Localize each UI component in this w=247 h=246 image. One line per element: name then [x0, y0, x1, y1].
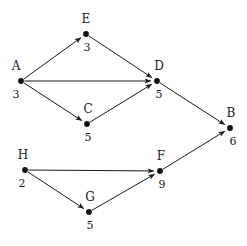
node-label-F: F	[157, 149, 165, 163]
edge-G-to-F	[92, 174, 155, 210]
node-dot-A[interactable]	[18, 78, 24, 84]
graph-canvas: A3E3C5D5B6H2G5F9	[0, 0, 247, 246]
edge-D-to-B	[160, 83, 225, 125]
node-value-G: 5	[87, 219, 94, 232]
node-D[interactable]: D5	[154, 59, 164, 101]
node-C[interactable]: C5	[83, 102, 92, 144]
node-value-F: 9	[159, 178, 166, 191]
edge-F-to-B	[163, 131, 225, 169]
node-dot-G[interactable]	[86, 209, 92, 215]
edge-E-to-D	[89, 36, 152, 78]
edge-C-to-D	[90, 84, 152, 122]
node-E[interactable]: E3	[82, 12, 91, 54]
node-value-A: 3	[13, 88, 20, 101]
node-dot-C[interactable]	[84, 121, 90, 127]
node-dot-E[interactable]	[83, 31, 89, 37]
edges-layer	[24, 36, 225, 210]
node-F[interactable]: F9	[157, 149, 166, 191]
node-label-A: A	[11, 59, 21, 73]
node-dot-F[interactable]	[157, 168, 163, 174]
node-B[interactable]: B6	[227, 106, 237, 148]
nodes-layer: A3E3C5D5B6H2G5F9	[11, 12, 237, 232]
node-G[interactable]: G5	[85, 190, 95, 232]
edge-H-to-G	[28, 172, 84, 209]
graph-diagram: A3E3C5D5B6H2G5F9	[0, 0, 247, 246]
node-label-G: G	[85, 190, 95, 204]
node-label-B: B	[227, 106, 236, 120]
node-A[interactable]: A3	[11, 59, 24, 101]
node-dot-B[interactable]	[227, 125, 233, 131]
node-value-B: 6	[230, 135, 237, 148]
node-dot-D[interactable]	[154, 78, 160, 84]
edge-A-to-E	[24, 38, 81, 79]
node-dot-H[interactable]	[22, 167, 28, 173]
node-label-H: H	[18, 148, 28, 162]
node-value-D: 5	[156, 88, 163, 101]
node-label-D: D	[154, 59, 164, 73]
edge-H-to-F	[28, 170, 153, 171]
edge-A-to-C	[24, 83, 82, 121]
node-value-H: 2	[19, 177, 26, 190]
node-H[interactable]: H2	[18, 148, 28, 190]
node-value-E: 3	[84, 41, 91, 54]
node-value-C: 5	[85, 131, 92, 144]
node-label-C: C	[83, 102, 92, 116]
node-label-E: E	[82, 12, 91, 26]
